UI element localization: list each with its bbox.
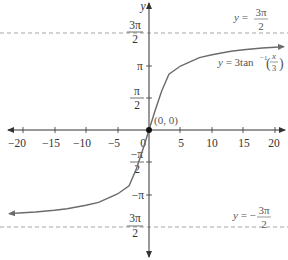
svg-text:3π: 3π xyxy=(255,6,267,18)
x-tick-label: −20 xyxy=(8,137,26,149)
y-tick-neg-3pi-2: 3π 2 xyxy=(127,212,143,239)
svg-text:3π: 3π xyxy=(258,204,270,216)
y-tick-pi: π xyxy=(137,60,143,72)
y-axis-label: y xyxy=(139,0,146,13)
x-tick-label: −10 xyxy=(73,137,91,149)
svg-text:3π: 3π xyxy=(129,212,141,224)
svg-text:π: π xyxy=(134,85,140,97)
x-tick-label: −5 xyxy=(108,137,120,149)
svg-text:(: ( xyxy=(266,56,271,72)
asymptote-top-label: y = 3π 2 xyxy=(233,6,268,32)
svg-text:2: 2 xyxy=(261,218,267,230)
x-tick-label: 20 xyxy=(268,137,280,149)
svg-text:3π: 3π xyxy=(129,19,141,31)
svg-text:y =: y = xyxy=(233,11,248,23)
svg-text:2: 2 xyxy=(132,227,138,239)
x-tick-label: 5 xyxy=(178,137,184,149)
svg-text:x: x xyxy=(271,51,276,61)
graph-canvas: −20 −15 −10 −5 0 5 10 15 20 y 3π 2 π π 2… xyxy=(0,0,288,260)
x-tick-label: −15 xyxy=(42,137,60,149)
y-tick-pi-2: π 2 xyxy=(130,85,144,111)
svg-text:2: 2 xyxy=(132,33,138,45)
svg-text:3: 3 xyxy=(272,63,277,73)
origin-point xyxy=(146,127,152,133)
x-tick-label: 15 xyxy=(238,137,250,149)
y-tick-3pi-2: 3π 2 xyxy=(127,19,143,45)
svg-text:2: 2 xyxy=(258,20,264,32)
asymptote-bottom-label: y = − 3π 2 xyxy=(232,204,271,230)
x-tick-label: 10 xyxy=(206,137,218,149)
curve-label: y = 3tan −1 ( x 3 ) xyxy=(217,51,284,73)
origin-label: (0, 0) xyxy=(154,114,178,127)
svg-text:y = 3tan: y = 3tan xyxy=(217,56,254,68)
svg-text:): ) xyxy=(279,56,284,72)
svg-text:2: 2 xyxy=(134,99,140,111)
svg-text:y = −: y = − xyxy=(232,209,256,221)
y-tick-neg-pi: −π xyxy=(132,189,144,201)
